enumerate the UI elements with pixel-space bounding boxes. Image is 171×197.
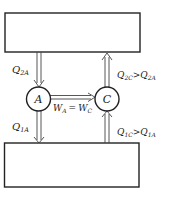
q2c-label: Q2C>Q2A (117, 70, 157, 81)
work-arrow (50, 93, 95, 102)
q1a-arrow (34, 111, 44, 143)
heat-engine-diagram: A C Q2A Q1A Q2C>Q2A Q1C>Q1A WA=WC (0, 0, 171, 197)
engine-c-label: C (103, 93, 112, 106)
q2a-arrow (34, 52, 44, 87)
top-reservoir (5, 13, 140, 52)
engine-a-label: A (34, 93, 43, 106)
bottom-reservoir (5, 143, 140, 187)
q2a-label: Q2A (12, 64, 29, 77)
work-label: WA=WC (53, 103, 92, 114)
q1a-label: Q1A (12, 121, 29, 134)
q2c-arrow (102, 53, 112, 87)
q1c-arrow (102, 111, 112, 143)
q1c-label: Q1C>Q1A (117, 127, 157, 138)
